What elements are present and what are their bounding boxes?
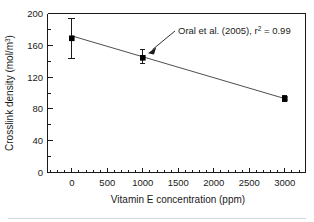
data-point-3000ppm — [282, 96, 288, 102]
y-tick-label-120: 120 — [27, 72, 43, 83]
y-axis-title: Crosslink density (mol/m3) — [4, 35, 16, 151]
y-tick-label-0: 0 — [38, 167, 43, 178]
y-axis-title-tail: ) — [4, 35, 15, 38]
x-tick-label-1000: 1000 — [132, 177, 153, 188]
y-axis-title-base: Crosslink density (mol/m — [4, 42, 15, 151]
y-tick-label-40: 40 — [32, 135, 43, 146]
annotation-tail: = 0.99 — [261, 25, 290, 36]
data-point-0ppm — [69, 36, 75, 42]
y-axis-title-group: Crosslink density (mol/m3) — [4, 35, 16, 151]
y-tick-label-200: 200 — [27, 8, 43, 19]
x-tick-label-2000: 2000 — [203, 177, 224, 188]
y-tick-label-160: 160 — [27, 40, 43, 51]
crosslink-density-vs-vitamin-e-chart: 0 40 80 120 160 200 — [0, 0, 314, 222]
x-axis-title: Vitamin E concentration (ppm) — [111, 194, 245, 205]
x-tick-label-500: 500 — [99, 177, 115, 188]
chart-figure: 0 40 80 120 160 200 — [0, 0, 314, 222]
y-tick-label-80: 80 — [32, 103, 43, 114]
annotation-label: Oral et al. (2005), r2 = 0.99 — [178, 25, 291, 37]
annotation-base: Oral et al. (2005), r — [178, 25, 258, 36]
x-tick-label-1500: 1500 — [168, 177, 189, 188]
x-tick-label-0: 0 — [69, 177, 74, 188]
data-point-1000ppm — [140, 55, 146, 61]
x-tick-label-2500: 2500 — [239, 177, 260, 188]
x-tick-label-3000: 3000 — [274, 177, 295, 188]
